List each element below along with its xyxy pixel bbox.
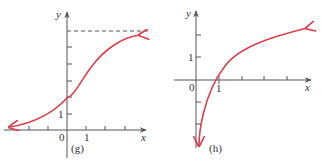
x-tick-label: 1: [216, 82, 222, 94]
origin-label: 0: [59, 131, 65, 143]
y-tick-label: 1: [188, 51, 194, 63]
graph-h: y x 0 1 1 (h): [174, 7, 311, 155]
x-ticks: [29, 126, 125, 130]
graph-g: y x 0 1 1 (g): [4, 8, 150, 158]
x-axis-label: x: [140, 131, 146, 143]
graph-caption: (g): [71, 142, 84, 155]
sigmoid-curve: [10, 35, 140, 127]
figure-canvas: y x 0 1 1 (g) y x 0 1 1 (: [0, 0, 321, 163]
origin-label: 0: [189, 81, 195, 93]
x-tick-label: 1: [84, 131, 90, 143]
x-axis-label: x: [304, 81, 310, 93]
y-tick-label: 1: [58, 108, 64, 120]
graph-caption: (h): [209, 142, 222, 155]
y-axis-label: y: [185, 7, 191, 19]
y-ticks: [67, 47, 72, 114]
y-axis-label: y: [55, 8, 61, 20]
